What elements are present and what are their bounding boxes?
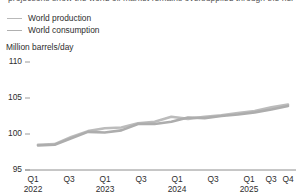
x-tick-quarter: Q3 — [128, 175, 154, 185]
x-tick-quarter: Q4 — [278, 175, 298, 185]
x-tick-year: 2025 — [236, 185, 262, 193]
x-tick-year: 2023 — [92, 185, 118, 193]
y-tick-label-105: 105 — [0, 93, 22, 102]
y-tick-label-110: 110 — [0, 57, 22, 66]
oil-supply-demand-chart: projections show the world oil market re… — [0, 0, 299, 192]
x-tick-q1-2022: Q1 2022 — [20, 175, 46, 192]
y-tick-marks — [25, 62, 30, 170]
x-tick-q1-2024: Q1 2024 — [164, 175, 190, 192]
x-tick-q4-2025: Q4 — [278, 175, 298, 185]
x-tick-q1-2025: Q1 2025 — [236, 175, 262, 192]
y-tick-label-95: 95 — [0, 165, 22, 174]
x-tick-quarter: Q3 — [56, 175, 82, 185]
x-tick-q1-2023: Q1 2023 — [92, 175, 118, 192]
series-line-world-production — [38, 104, 288, 144]
x-tick-q3-2024: Q3 — [200, 175, 226, 185]
x-tick-q3-2022: Q3 — [56, 175, 82, 185]
y-tick-label-100: 100 — [0, 129, 22, 138]
plot-area: 110 105 100 95 Q1 2022 Q3 Q1 2023 Q3 Q1 … — [0, 0, 299, 192]
series-line-world-consumption — [38, 106, 288, 146]
x-tick-q3-2023: Q3 — [128, 175, 154, 185]
x-tick-year: 2022 — [20, 185, 46, 193]
x-tick-quarter: Q3 — [200, 175, 226, 185]
plot-svg — [0, 0, 299, 192]
x-tick-year: 2024 — [164, 185, 190, 193]
